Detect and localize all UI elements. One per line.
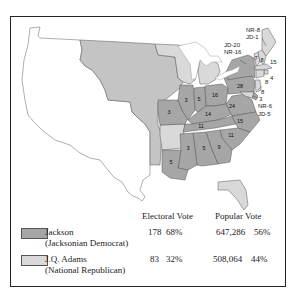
legend: Electoral Vote Popular Vote Jackson (Jac…	[0, 0, 300, 301]
jackson-popular-votes: 647,286	[216, 227, 245, 238]
adams-electoral-pct: 32%	[166, 254, 183, 265]
adams-electoral-votes: 83	[150, 254, 159, 265]
jackson-swatch	[21, 228, 48, 239]
jackson-electoral-votes: 178	[148, 227, 162, 238]
jackson-popular-pct: 56%	[254, 227, 271, 238]
adams-party: (National Republican)	[45, 265, 125, 276]
adams-name: J.Q. Adams	[45, 254, 87, 265]
jackson-party: (Jacksonian Democrat)	[45, 238, 128, 249]
adams-popular-votes: 508,064	[213, 254, 242, 265]
jackson-name: Jackson	[45, 227, 74, 238]
adams-swatch	[21, 255, 48, 266]
adams-popular-pct: 44%	[251, 254, 268, 265]
popular-vote-header: Popular Vote	[215, 211, 261, 221]
jackson-electoral-pct: 68%	[166, 227, 183, 238]
electoral-vote-header: Electoral Vote	[142, 211, 193, 221]
